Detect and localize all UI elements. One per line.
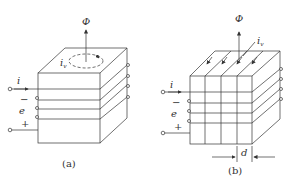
minus-label-a: − (20, 94, 28, 105)
flux-label-b: Φ (235, 13, 243, 24)
minus-label-b: − (172, 97, 180, 108)
current-label-b: i (170, 79, 173, 90)
core-top-face (38, 48, 127, 73)
core-right-face (100, 48, 127, 143)
emf-label-a: e (19, 105, 25, 116)
eddy-label-b: iv (257, 35, 264, 47)
caption-b: (b) (228, 165, 242, 176)
emf-label-b: e (171, 108, 177, 119)
plus-label-a: + (21, 118, 29, 129)
current-label-a: i (17, 75, 20, 86)
core-front-face (38, 73, 100, 143)
plus-label-b: + (174, 121, 182, 132)
eddy-label-a: iv (60, 57, 67, 69)
dimension-label-d: d (241, 147, 247, 158)
flux-label-a: Φ (82, 16, 90, 27)
caption-a: (a) (62, 158, 76, 169)
eddy-current-diagram: Φ iv i − e + (a) Φ (0, 0, 292, 181)
